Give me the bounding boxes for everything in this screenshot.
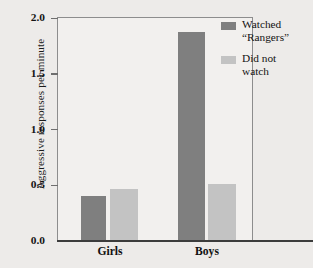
- x-axis-label-girls: Girls: [79, 245, 141, 258]
- x-axis-label-boys: Boys: [176, 245, 238, 258]
- legend-swatch-did-not-watch-icon: [221, 56, 236, 64]
- bar-boys-did-not-watch[interactable]: [208, 184, 236, 240]
- x-axis-baseline: [57, 240, 313, 242]
- legend-item-did-not-watch[interactable]: Did not watch: [221, 52, 313, 77]
- bar-girls-did-not-watch[interactable]: [110, 189, 138, 240]
- bar-chart-figure: Aggressive responses per minute 2.0 1.5 …: [0, 0, 313, 268]
- legend-label-watched: Watched “Rangers”: [242, 18, 289, 43]
- bar-boys-watched[interactable]: [178, 32, 205, 240]
- legend-label-did-not-watch: Did not watch: [242, 52, 276, 77]
- bar-girls-watched[interactable]: [81, 196, 106, 241]
- legend: Watched “Rangers” Did not watch: [221, 18, 313, 86]
- legend-swatch-watched-icon: [221, 22, 236, 30]
- legend-item-watched[interactable]: Watched “Rangers”: [221, 18, 313, 43]
